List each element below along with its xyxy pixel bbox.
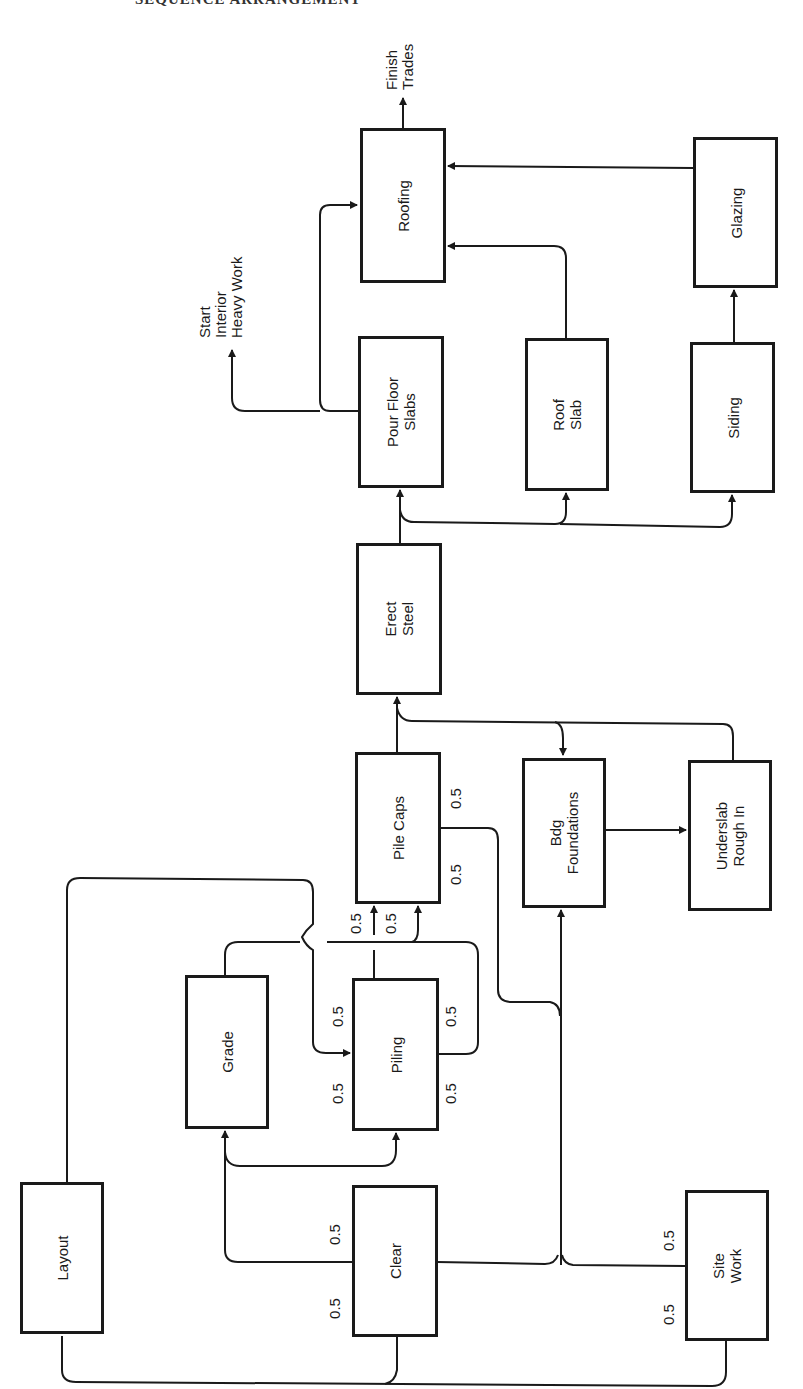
weight-label: 0.5 bbox=[326, 1298, 343, 1319]
weight-label: 0.5 bbox=[660, 1230, 677, 1251]
node-roof-slab: Roof Slab bbox=[525, 338, 609, 491]
node-siding: Siding bbox=[690, 342, 775, 493]
node-glazing: Glazing bbox=[693, 137, 778, 288]
node-label: Piling bbox=[387, 1036, 404, 1073]
node-layout: Layout bbox=[20, 1182, 104, 1334]
node-clear: Clear bbox=[352, 1185, 438, 1337]
node-label: Site Work bbox=[710, 1248, 744, 1283]
node-label: Siding bbox=[724, 397, 741, 439]
weight-label: 0.5 bbox=[326, 1224, 343, 1245]
node-bdg-foundations: Bdg Foundations bbox=[522, 758, 606, 908]
weight-label: 0.5 bbox=[660, 1304, 677, 1325]
node-label: Underslab Rough In bbox=[713, 801, 747, 869]
node-piling: Piling bbox=[352, 978, 439, 1131]
node-label: Pour Floor Slabs bbox=[384, 377, 418, 447]
node-label: Pile Caps bbox=[390, 796, 407, 860]
start-interior-label: Start Interior Heavy Work bbox=[197, 257, 245, 338]
node-site-work: Site Work bbox=[685, 1190, 769, 1341]
weight-label: 0.5 bbox=[382, 913, 399, 934]
weight-label: 0.5 bbox=[329, 1083, 346, 1104]
weight-label: 0.5 bbox=[329, 1006, 346, 1027]
node-label: Layout bbox=[54, 1235, 71, 1280]
node-grade: Grade bbox=[185, 975, 269, 1129]
node-label: Clear bbox=[387, 1243, 404, 1279]
weight-label: 0.5 bbox=[442, 1006, 459, 1027]
node-underslab-rough-in: Underslab Rough In bbox=[688, 760, 772, 911]
node-label: Roofing bbox=[395, 180, 412, 232]
weight-label: 0.5 bbox=[442, 1083, 459, 1104]
weight-label: 0.5 bbox=[447, 864, 464, 885]
finish-trades-label: Finish Trades bbox=[384, 44, 416, 90]
node-roofing: Roofing bbox=[360, 128, 446, 283]
node-pile-caps: Pile Caps bbox=[355, 752, 441, 904]
node-label: Grade bbox=[219, 1031, 236, 1073]
node-label: Roof Slab bbox=[550, 399, 584, 431]
node-label: Glazing bbox=[727, 187, 744, 238]
weight-label: 0.5 bbox=[347, 913, 364, 934]
node-pour-floor-slabs: Pour Floor Slabs bbox=[358, 336, 444, 488]
node-label: Bdg Foundations bbox=[547, 792, 581, 875]
node-erect-steel: Erect Steel bbox=[356, 543, 442, 695]
node-label: Erect Steel bbox=[382, 601, 416, 636]
weight-label: 0.5 bbox=[447, 788, 464, 809]
network-diagram: SEQUENCE ARRANGEMENT bbox=[0, 0, 803, 1389]
